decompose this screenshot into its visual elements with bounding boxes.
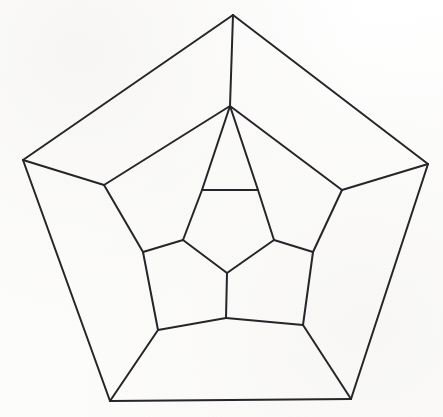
graph-edge-spoke-outer: [303, 325, 351, 399]
graph-edge-middle-outer-ring: [226, 318, 303, 325]
graph-edge-spoke-outer: [342, 164, 428, 190]
graph-edge-spoke-inner: [202, 106, 230, 190]
graph-edge-spoke-inner: [230, 106, 258, 190]
graph-edge-spoke-outer: [110, 330, 158, 401]
graph-edge-inner-pentagon: [183, 190, 202, 240]
graph-canvas: [0, 0, 443, 417]
graph-edge-inner-pentagon: [227, 240, 274, 273]
graph-edge-outer-pentagon: [110, 399, 351, 401]
graph-edge-outer-pentagon: [233, 15, 428, 164]
graph-edge-middle-outer-ring: [104, 106, 230, 185]
graph-edge-spoke-outer: [230, 15, 233, 106]
graph-edge-middle-outer-ring: [313, 190, 342, 252]
graph-edge-middle-outer-ring: [158, 318, 226, 330]
graph-edge-spoke-inner: [274, 240, 313, 252]
graph-edge-outer-pentagon: [351, 164, 428, 399]
graph-edge-outer-pentagon: [23, 15, 233, 160]
dodecahedron-schlegel-diagram: [0, 0, 443, 417]
graph-edge-middle-outer-ring: [230, 106, 342, 190]
graph-edge-inner-pentagon: [183, 240, 227, 273]
graph-edge-middle-outer-ring: [143, 252, 158, 330]
edge-layer: [23, 15, 428, 401]
graph-edge-middle-outer-ring: [104, 185, 143, 252]
graph-edge-spoke-outer: [23, 160, 104, 185]
graph-edge-middle-outer-ring: [303, 252, 313, 325]
graph-edge-spoke-inner: [226, 273, 227, 318]
graph-edge-inner-pentagon: [258, 190, 274, 240]
graph-edge-spoke-inner: [143, 240, 183, 252]
graph-edge-outer-pentagon: [23, 160, 110, 401]
